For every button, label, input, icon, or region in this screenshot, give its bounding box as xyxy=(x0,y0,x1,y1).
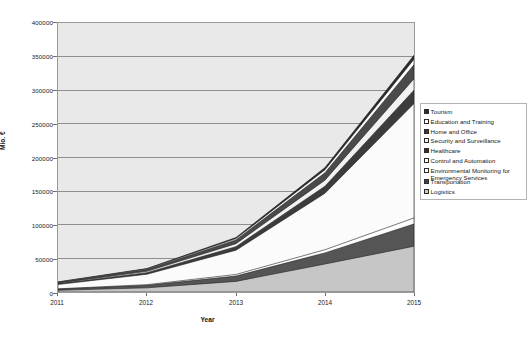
x-tick-label: 2012 xyxy=(126,299,166,306)
legend-item-education-and-training[interactable]: Education and Training xyxy=(424,118,524,125)
legend-label: Home and Office xyxy=(431,128,477,135)
legend-item-security-and-surveillance[interactable]: Security and Surveillance xyxy=(424,137,524,144)
x-tick-label: 2014 xyxy=(305,299,345,306)
y-tick-label: 200000 xyxy=(7,155,53,162)
plot-area xyxy=(57,22,415,293)
y-axis-ticks: 400000 350000 300000 250000 200000 15000… xyxy=(3,0,53,340)
legend-swatch-icon xyxy=(424,189,429,194)
legend-item-tourism[interactable]: Tourism xyxy=(424,108,524,115)
x-tick-mark xyxy=(57,293,58,296)
legend-label: Education and Training xyxy=(431,118,494,125)
legend-label: Transportation xyxy=(431,178,471,185)
legend-item-healthcare[interactable]: Healthcare xyxy=(424,147,524,154)
y-tick-label: 0 xyxy=(7,290,53,297)
legend-swatch-icon xyxy=(424,148,429,153)
legend-label: Control and Automation xyxy=(431,157,496,164)
legend-swatch-icon xyxy=(424,179,429,184)
legend-swatch-icon xyxy=(424,168,429,173)
x-tick-mark xyxy=(414,293,415,296)
chart-figure: 400000 350000 300000 250000 200000 15000… xyxy=(0,0,530,340)
legend-swatch-icon xyxy=(424,158,429,163)
stacked-area-svg xyxy=(58,23,414,292)
legend-label: Security and Surveillance xyxy=(431,137,501,144)
legend-item-control-and-automation[interactable]: Control and Automation xyxy=(424,157,524,164)
x-tick-mark xyxy=(325,293,326,296)
legend-label: Logistics xyxy=(431,188,455,195)
x-tick-label: 2013 xyxy=(216,299,256,306)
legend-swatch-icon xyxy=(424,119,429,124)
legend-item-logistics[interactable]: Logistics xyxy=(424,188,524,195)
y-tick-label: 300000 xyxy=(7,87,53,94)
legend-swatch-icon xyxy=(424,109,429,114)
x-tick-label: 2011 xyxy=(37,299,77,306)
x-tick-mark xyxy=(236,293,237,296)
y-axis-label: Mio. € xyxy=(0,131,6,150)
legend-label: Healthcare xyxy=(431,147,461,154)
x-tick-mark xyxy=(146,293,147,296)
x-axis-label: Year xyxy=(0,316,415,323)
chart-legend: Tourism Education and Training Home and … xyxy=(420,103,527,200)
y-tick-label: 50000 xyxy=(7,256,53,263)
y-tick-label: 100000 xyxy=(7,222,53,229)
y-tick-label: 150000 xyxy=(7,188,53,195)
x-tick-label: 2015 xyxy=(394,299,434,306)
y-tick-label: 400000 xyxy=(7,19,53,26)
y-tick-label: 250000 xyxy=(7,121,53,128)
legend-swatch-icon xyxy=(424,138,429,143)
legend-item-home-and-office[interactable]: Home and Office xyxy=(424,128,524,135)
legend-swatch-icon xyxy=(424,129,429,134)
legend-label: Tourism xyxy=(431,108,453,115)
y-tick-label: 350000 xyxy=(7,53,53,60)
